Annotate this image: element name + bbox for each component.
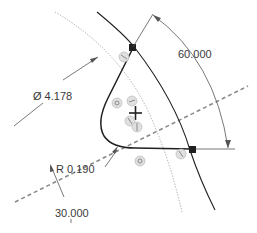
arrowhead-diameter xyxy=(90,57,98,63)
tangent-icon[interactable] xyxy=(127,96,137,106)
arrowhead-radius xyxy=(112,146,118,154)
tangent-icon[interactable] xyxy=(132,122,142,132)
vertex-right[interactable] xyxy=(189,146,196,153)
tangent-icon[interactable] xyxy=(135,156,145,166)
construction-arc[interactable] xyxy=(55,12,182,212)
arrowhead-30 xyxy=(50,164,54,172)
tangent-icon[interactable] xyxy=(112,98,122,108)
sketch-canvas[interactable]: Ø 4.178 60.000 R 0.190 30.000 xyxy=(0,0,257,233)
diameter-leader-tail xyxy=(14,103,43,126)
coincident-icon[interactable] xyxy=(176,149,186,159)
vertex-top[interactable] xyxy=(129,44,136,51)
extension-line-top xyxy=(133,14,153,47)
arrowhead-60-bottom xyxy=(225,140,231,148)
dimension-angle-30[interactable]: 30.000 xyxy=(55,207,89,219)
arrowhead-60-top xyxy=(153,15,161,22)
dimension-arc-60[interactable] xyxy=(153,15,228,148)
dimension-diameter[interactable]: Ø 4.178 xyxy=(33,90,72,102)
dimension-angle-60[interactable]: 60.000 xyxy=(178,48,212,60)
coincident-icon[interactable] xyxy=(119,52,129,62)
dimension-radius[interactable]: R 0.190 xyxy=(56,163,95,175)
